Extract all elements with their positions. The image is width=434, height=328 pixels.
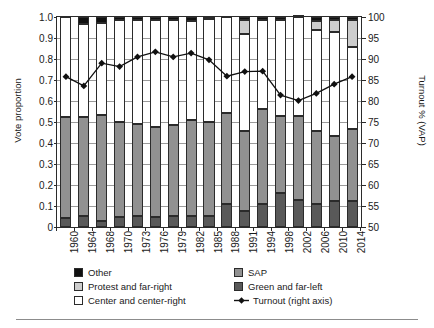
bar-1960[interactable] xyxy=(60,17,71,227)
y-axis-right-tick-mark xyxy=(361,101,366,102)
bar-1998[interactable] xyxy=(275,17,286,227)
y-axis-right-tick-label: 95 xyxy=(368,33,398,44)
y-axis-right-tick-label: 90 xyxy=(368,54,398,65)
bar-1976[interactable] xyxy=(150,17,161,227)
bar-segment xyxy=(114,122,125,217)
bar-1985[interactable] xyxy=(203,17,214,227)
y-axis-right-tick-label: 75 xyxy=(368,117,398,128)
bar-segment xyxy=(203,17,214,19)
legend-item-protest-and-far-right[interactable]: Protest and far-right xyxy=(74,280,172,293)
y-axis-left-tick-mark xyxy=(54,101,58,102)
bar-segment xyxy=(347,17,358,20)
y-axis-right-tick-mark xyxy=(361,185,366,186)
bar-segment xyxy=(203,122,214,216)
bar-segment xyxy=(329,17,340,20)
bar-1968[interactable] xyxy=(96,17,107,227)
y-axis-right-tick-label: 60 xyxy=(368,180,398,191)
x-axis-tick-mark xyxy=(163,227,164,231)
y-axis-right-tick-mark xyxy=(361,206,366,207)
bar-segment xyxy=(239,17,250,20)
bar-segment xyxy=(347,47,358,129)
x-axis-tick-mark xyxy=(110,227,111,231)
bar-1964[interactable] xyxy=(78,17,89,227)
y-axis-left-tick-mark xyxy=(54,59,58,60)
x-axis-tick-mark xyxy=(271,227,272,231)
y-axis-right-tick-label: 70 xyxy=(368,138,398,149)
x-axis-tick-mark xyxy=(342,227,343,231)
x-axis-tick-label-2010: 2010 xyxy=(338,231,349,253)
y-axis-right-tick-mark xyxy=(361,227,366,228)
bar-segment xyxy=(60,17,71,117)
legend-item-other[interactable]: Other xyxy=(74,266,112,279)
y-axis-left-tick-mark xyxy=(54,164,58,165)
bar-1970[interactable] xyxy=(114,17,125,227)
bar-1979[interactable] xyxy=(168,17,179,227)
bar-segment xyxy=(78,216,89,227)
bar-segment xyxy=(329,20,340,32)
stacked-bars xyxy=(57,17,361,227)
bar-2006[interactable] xyxy=(311,17,322,227)
y-axis-left-tick-label: 0.3 xyxy=(23,159,53,170)
legend-item-green-and-far-left[interactable]: Green and far-left xyxy=(234,280,322,293)
y-axis-right-title: Turnout % (VAP) xyxy=(417,51,428,171)
bar-segment xyxy=(329,201,340,227)
bar-2010[interactable] xyxy=(329,17,340,227)
x-axis-tick-label-2014: 2014 xyxy=(356,231,367,253)
y-axis-right-tick-mark xyxy=(361,164,366,165)
bar-segment xyxy=(132,216,143,227)
x-axis-tick-mark xyxy=(324,227,325,231)
bar-segment xyxy=(311,204,322,227)
bar-segment xyxy=(293,17,304,116)
legend-line-diamond-icon xyxy=(234,296,249,305)
bar-segment xyxy=(168,20,179,124)
bar-segment xyxy=(275,116,286,192)
bar-segment xyxy=(150,17,161,20)
y-axis-right-tick-label: 100 xyxy=(368,12,398,23)
y-axis-left-tick-label: 0.7 xyxy=(23,75,53,86)
bar-2014[interactable] xyxy=(347,17,358,227)
y-axis-left-tick-label: 1.0 xyxy=(23,12,53,23)
x-axis-tick-label-2006: 2006 xyxy=(320,231,331,253)
x-axis-tick-mark xyxy=(145,227,146,231)
bar-1982[interactable] xyxy=(186,17,197,227)
y-axis-left-tick-mark xyxy=(54,143,58,144)
y-axis-left-tick-label: 0.8 xyxy=(23,54,53,65)
bar-1991[interactable] xyxy=(239,17,250,227)
bar-1973[interactable] xyxy=(132,17,143,227)
y-axis-left-tick-mark xyxy=(54,206,58,207)
bar-segment xyxy=(275,193,286,227)
y-axis-right-tick-mark xyxy=(361,122,366,123)
legend-item-center-and-center-right[interactable]: Center and center-right xyxy=(74,294,186,307)
legend-item-sap[interactable]: SAP xyxy=(234,266,267,279)
x-axis-tick-label-1994: 1994 xyxy=(266,231,277,253)
y-axis-left-tick-label: 0.6 xyxy=(23,96,53,107)
bar-segment xyxy=(132,124,143,216)
bar-segment xyxy=(257,20,268,110)
bar-segment xyxy=(150,20,161,127)
bar-segment xyxy=(168,17,179,20)
x-axis-tick-label-1988: 1988 xyxy=(230,231,241,253)
bar-2002[interactable] xyxy=(293,17,304,227)
bar-segment xyxy=(293,15,304,17)
bar-segment xyxy=(114,17,125,20)
y-axis-left-tick-mark xyxy=(54,38,58,39)
bar-segment xyxy=(257,17,268,20)
legend-swatch-icon xyxy=(74,282,83,291)
bar-1994[interactable] xyxy=(257,17,268,227)
bar-segment xyxy=(96,115,107,221)
bar-segment xyxy=(221,204,232,227)
legend-item-turnout-right-axis[interactable]: Turnout (right axis) xyxy=(234,294,332,307)
x-axis-tick-mark xyxy=(74,227,75,231)
bar-segment xyxy=(186,21,197,120)
bar-segment xyxy=(293,200,304,227)
legend-swatch-icon xyxy=(74,268,83,277)
footer-divider xyxy=(16,319,418,320)
bar-segment xyxy=(239,131,250,211)
bar-segment xyxy=(96,17,107,23)
legend-swatch-icon xyxy=(234,268,243,277)
bar-1988[interactable] xyxy=(221,17,232,227)
x-axis-tick-label-1985: 1985 xyxy=(213,231,224,253)
bar-segment xyxy=(78,17,89,24)
bar-segment xyxy=(150,127,161,217)
x-axis-tick-mark xyxy=(56,227,57,231)
